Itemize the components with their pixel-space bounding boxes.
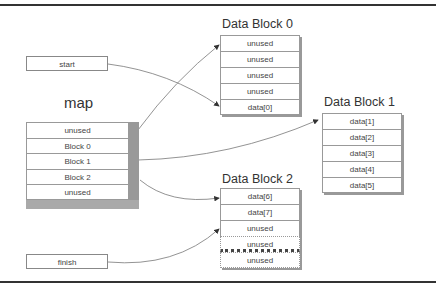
data-block-1: data[1] data[2] data[3] data[4] data[5] — [322, 113, 402, 193]
map-3d-bottom — [26, 200, 139, 209]
block-cell: unused — [220, 51, 300, 67]
block-cell: unused — [220, 252, 300, 268]
block-cell: data[5] — [322, 177, 402, 193]
map-array: unused Block 0 Block 1 Block 2 unused — [26, 122, 129, 200]
block-cell: data[7] — [220, 204, 300, 220]
block-cell: unused — [220, 67, 300, 83]
block-cell: data[3] — [322, 145, 402, 161]
map-cell: Block 0 — [26, 138, 129, 154]
block-cell: data[0] — [220, 99, 300, 115]
data-block-0: unused unused unused unused data[0] — [220, 35, 300, 115]
block-cell: data[4] — [322, 161, 402, 177]
map-cell: Block 1 — [26, 153, 129, 169]
arrow-finish-to-datablock2 — [108, 229, 219, 263]
block-cell: unused — [220, 236, 300, 252]
finish-pointer: finish — [26, 254, 108, 269]
map-cell: unused — [26, 122, 129, 138]
map-cell: Block 2 — [26, 169, 129, 185]
arrow-block0-to-datablock0 — [138, 45, 219, 130]
arrow-start-to-data0 — [108, 64, 219, 106]
arrow-block1-to-datablock1 — [138, 120, 318, 160]
map-title: map — [64, 94, 93, 111]
data-block-2-title: Data Block 2 — [222, 172, 293, 186]
block-cell: data[6] — [220, 188, 300, 204]
block-cell: data[1] — [322, 113, 402, 129]
block-cell: unused — [220, 220, 300, 236]
block-cell: unused — [220, 83, 300, 99]
data-block-0-title: Data Block 0 — [222, 17, 293, 31]
map-cell: unused — [26, 184, 129, 200]
arrow-block2-to-datablock2 — [140, 180, 219, 200]
block-cell: unused — [220, 35, 300, 51]
block-cell: data[2] — [322, 129, 402, 145]
start-pointer: start — [26, 56, 108, 71]
data-block-2: data[6] data[7] unused unused unused — [220, 188, 300, 268]
data-block-1-title: Data Block 1 — [324, 95, 395, 109]
map-3d-side — [129, 122, 139, 200]
